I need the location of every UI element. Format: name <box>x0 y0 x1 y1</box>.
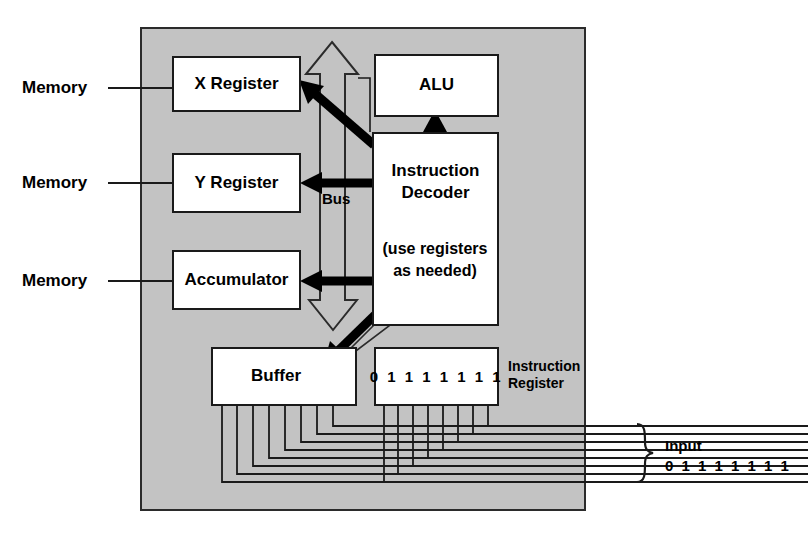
x-register-box[interactable] <box>173 57 300 111</box>
diagram-canvas: Memory Memory Memory X Register Y Regist… <box>0 0 808 538</box>
instruction-decoder-box[interactable] <box>373 133 498 325</box>
memory-label-3: Memory <box>22 271 87 291</box>
instruction-register-label-line2: Register <box>508 375 564 391</box>
instruction-register-box[interactable] <box>375 348 498 405</box>
y-register-box[interactable] <box>173 154 300 212</box>
accumulator-box[interactable] <box>173 251 300 309</box>
input-label: Input <box>665 437 702 454</box>
memory-label-2: Memory <box>22 173 87 193</box>
alu-box[interactable] <box>375 55 498 116</box>
buffer-box[interactable] <box>212 348 356 405</box>
instruction-register-label-line1: Instruction <box>508 358 580 374</box>
input-bits-label: 0 1 1 1 1 1 1 1 <box>665 457 791 474</box>
memory-label-1: Memory <box>22 78 87 98</box>
bus-label: Bus <box>322 190 350 207</box>
